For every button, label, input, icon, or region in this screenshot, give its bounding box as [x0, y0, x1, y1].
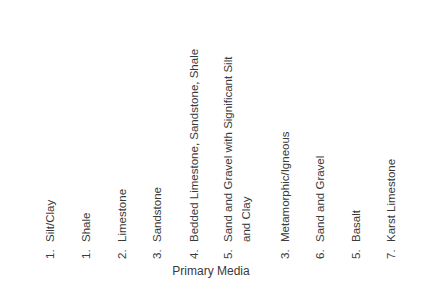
media-label-basalt: 5.Basalt — [350, 210, 363, 259]
primary-media-diagram: 1.Silt/Clay 1.Shale 2.Limestone 3.Sandst… — [0, 0, 422, 294]
media-label-metamorphic-igneous: 3.Metamorphic/Igneous — [279, 131, 292, 259]
axis-title: Primary Media — [0, 264, 422, 278]
media-label-sand-gravel-silt-clay-line2: and Clay — [240, 197, 253, 259]
media-label-sandstone: 3.Sandstone — [151, 187, 164, 259]
media-label-sand-gravel-silt-clay: 5.Sand and Gravel with Significant Silt — [222, 57, 235, 259]
media-label-karst-limestone: 7.Karst Limestone — [385, 159, 398, 259]
media-label-sand-gravel: 6.Sand and Gravel — [314, 156, 327, 259]
media-label-bedded-limestone-sandstone-shale: 4.Bedded Limestone, Sandstone, Shale — [188, 49, 201, 259]
media-label-shale: 1.Shale — [80, 213, 93, 259]
media-label-silt-clay: 1.Silt/Clay — [44, 200, 57, 259]
media-label-limestone: 2.Limestone — [116, 189, 129, 259]
